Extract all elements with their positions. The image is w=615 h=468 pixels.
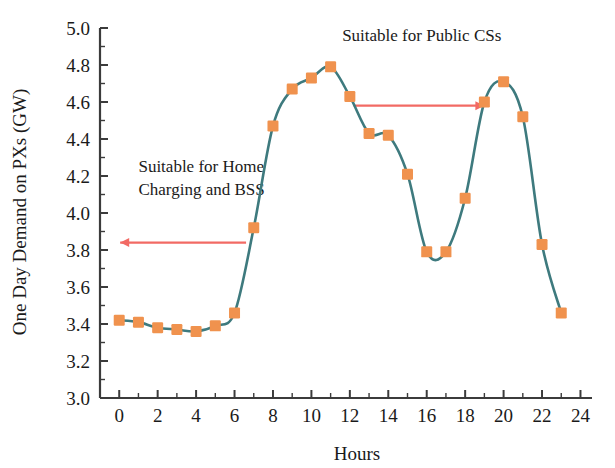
data-point-marker xyxy=(191,326,202,337)
data-point-marker xyxy=(248,222,259,233)
data-point-marker xyxy=(114,315,125,326)
annotation-label: Suitable for Public CSs xyxy=(342,26,501,45)
y-axis-tick-label: 3.4 xyxy=(66,314,90,335)
x-axis-tick-label: 22 xyxy=(533,405,552,426)
y-axis-tick-label: 4.4 xyxy=(66,129,90,150)
y-axis-tick-label: 4.8 xyxy=(66,55,90,76)
x-axis-tick-label: 8 xyxy=(268,405,278,426)
y-axis-tick-label: 3.6 xyxy=(66,277,90,298)
annotation-label: Charging and BSS xyxy=(138,180,264,199)
data-point-marker xyxy=(344,91,355,102)
data-point-marker xyxy=(479,97,490,108)
data-point-marker xyxy=(364,128,375,139)
y-axis-tick-label: 3.0 xyxy=(66,388,90,409)
x-axis-tick-label: 6 xyxy=(230,405,240,426)
x-axis-tick-label: 2 xyxy=(153,405,163,426)
x-axis-tick-label: 0 xyxy=(114,405,124,426)
data-point-marker xyxy=(325,61,336,72)
x-axis-tick-label: 4 xyxy=(191,405,201,426)
data-point-marker xyxy=(498,76,509,87)
x-axis-tick-label: 20 xyxy=(494,405,513,426)
data-point-marker xyxy=(421,246,432,257)
y-axis-tick-label: 4.0 xyxy=(66,203,90,224)
y-axis-tick-label: 4.2 xyxy=(66,166,90,187)
x-axis-tick-label: 10 xyxy=(302,405,321,426)
y-axis-tick-label: 3.2 xyxy=(66,351,90,372)
data-point-marker xyxy=(556,307,567,318)
data-point-marker xyxy=(537,239,548,250)
x-axis-tick-label: 24 xyxy=(571,405,591,426)
data-point-marker xyxy=(171,324,182,335)
data-point-marker xyxy=(440,246,451,257)
line-chart: 3.03.23.43.63.84.04.24.44.64.85.0 024681… xyxy=(0,0,615,468)
data-point-marker xyxy=(267,121,278,132)
data-point-marker xyxy=(210,320,221,331)
data-point-marker xyxy=(152,322,163,333)
x-axis-tick-label: 12 xyxy=(340,405,359,426)
data-point-marker xyxy=(306,72,317,83)
x-axis-title: Hours xyxy=(334,443,380,464)
data-point-marker xyxy=(402,169,413,180)
data-point-marker xyxy=(517,111,528,122)
y-axis-title: One Day Demand on PXs (GW) xyxy=(9,89,31,335)
x-axis-tick-label: 14 xyxy=(379,405,399,426)
x-axis-tick-label: 16 xyxy=(417,405,436,426)
y-axis-tick-label: 3.8 xyxy=(66,240,90,261)
data-point-marker xyxy=(229,307,240,318)
y-axis-tick-label: 5.0 xyxy=(66,18,90,39)
data-point-marker xyxy=(287,84,298,95)
annotation-label: Suitable for Home xyxy=(138,157,264,176)
data-point-marker xyxy=(460,193,471,204)
chart-page: 3.03.23.43.63.84.04.24.44.64.85.0 024681… xyxy=(0,0,615,468)
data-point-marker xyxy=(383,130,394,141)
x-axis-tick-label: 18 xyxy=(456,405,475,426)
y-axis-tick-label: 4.6 xyxy=(66,92,90,113)
data-point-marker xyxy=(133,317,144,328)
